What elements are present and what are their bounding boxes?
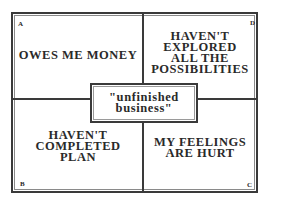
quadrant-a: OWES ME MONEY [14, 40, 142, 70]
center-box: "unfinished business" [90, 83, 198, 123]
horizontal-divider-right [198, 98, 257, 100]
quadrant-a-text: OWES ME MONEY [19, 50, 137, 61]
quadrant-d-line-4: POSSIBILITIES [151, 64, 249, 75]
quadrant-b-corner-label: B [20, 180, 25, 188]
quadrant-b: HAVEN'T COMPLETED PLAN [14, 128, 142, 164]
quadrant-a-corner-label: A [18, 20, 23, 28]
quadrant-c: MY FEELINGS ARE HURT [144, 136, 256, 160]
quadrant-b-line-3: PLAN [60, 152, 96, 163]
center-line-2: business" [109, 103, 179, 114]
quadrant-c-corner-label: C [247, 181, 252, 189]
horizontal-divider-left [13, 98, 90, 100]
quadrant-d: HAVEN'T EXPLORED ALL THE POSSIBILITIES [144, 28, 256, 78]
quadrant-d-corner-label: D [250, 19, 255, 27]
quadrant-c-line-2: ARE HURT [165, 148, 234, 159]
